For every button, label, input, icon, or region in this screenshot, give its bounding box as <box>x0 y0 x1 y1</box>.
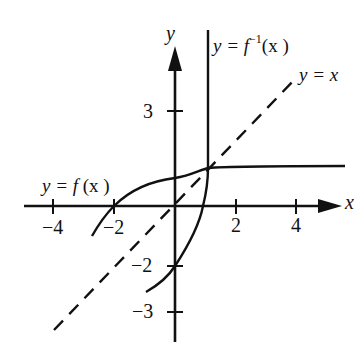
x-axis-arrow-icon <box>318 199 342 213</box>
x-tick-label--2: −2 <box>103 216 124 238</box>
f-inverse-curve-label: y = f−1(x ) <box>211 32 289 57</box>
identity-line-label: y = x <box>297 64 339 85</box>
y-axis <box>167 46 183 342</box>
f-curve <box>92 166 345 236</box>
y-axis-arrow-icon <box>168 46 182 71</box>
x-axis-label: x <box>344 191 354 213</box>
f-curve-label: y = f (x ) <box>40 175 110 197</box>
x-tick-label-2: 2 <box>231 214 241 236</box>
y-tick-label--3: −3 <box>132 300 153 322</box>
y-axis-label: y <box>164 22 175 45</box>
y-tick-label--2: −2 <box>131 254 152 276</box>
x-axis <box>24 199 342 214</box>
function-inverse-graph: x y −4 −2 2 4 3 −2 −3 y = f (x ) y = f−1… <box>0 0 364 351</box>
x-tick-label-4: 4 <box>291 214 301 236</box>
x-tick-label--4: −4 <box>42 216 63 238</box>
y-tick-label-3: 3 <box>143 100 153 122</box>
